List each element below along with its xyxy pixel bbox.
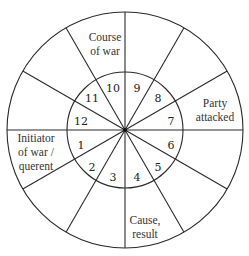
house-number: 9	[134, 82, 141, 95]
label-cause-result: Cause,	[130, 214, 161, 227]
house-number: 1	[78, 139, 85, 152]
house-number: 10	[106, 82, 120, 95]
house-number: 4	[134, 171, 141, 184]
house-number: 5	[155, 161, 162, 174]
label-party-attacked: attacked	[196, 111, 235, 123]
label-cause-result: result	[132, 228, 158, 240]
house-number: 7	[168, 115, 175, 128]
label-party-attacked: Party	[203, 97, 228, 110]
label-initiator: querent	[19, 160, 54, 173]
label-initiator: Initiator	[17, 132, 54, 144]
center-dot	[123, 128, 127, 132]
house-number: 6	[168, 139, 175, 152]
house-number: 8	[155, 92, 162, 105]
label-initiator: of war /	[18, 146, 55, 158]
house-number: 12	[74, 115, 88, 128]
house-number: 2	[89, 161, 96, 174]
label-course-of-war: Course	[89, 31, 122, 43]
label-course-of-war: of war	[90, 45, 120, 57]
chart-wheel: 1 2 3 4 5 6 7 8 9 10 11 12 Course of war…	[0, 0, 249, 256]
house-number: 3	[110, 171, 117, 184]
house-number: 11	[85, 92, 99, 105]
